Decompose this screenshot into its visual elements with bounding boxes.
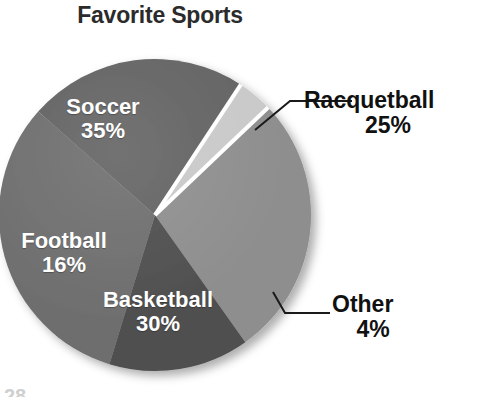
slice-label-football-percent: 16% xyxy=(2,253,126,277)
slice-label-racquetball-name: Racquetball xyxy=(304,88,476,113)
slice-label-other-percent: 4% xyxy=(332,317,414,342)
slice-label-basketball: Basketball 30% xyxy=(78,288,238,336)
slice-label-soccer-name: Soccer xyxy=(38,95,168,119)
slice-label-basketball-name: Basketball xyxy=(78,288,238,312)
slice-label-soccer-percent: 35% xyxy=(38,119,168,143)
slice-label-other-name: Other xyxy=(332,292,452,317)
slice-label-other: Other 4% xyxy=(332,292,452,342)
slice-label-basketball-percent: 30% xyxy=(78,312,238,336)
slice-label-football-name: Football xyxy=(2,229,126,253)
slice-label-racquetball: Racquetball 25% xyxy=(304,88,476,138)
pie-chart-figure: Favorite Sports xyxy=(0,0,478,397)
slice-label-racquetball-percent: 25% xyxy=(304,113,472,138)
slice-label-football: Football 16% xyxy=(2,229,126,277)
page-number-partial: 28 xyxy=(4,386,26,397)
slice-label-soccer: Soccer 35% xyxy=(38,95,168,143)
